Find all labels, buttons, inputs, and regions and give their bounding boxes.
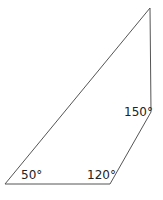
angle-label-120: 120° [87, 168, 116, 182]
angle-label-150: 150° [124, 105, 153, 119]
angle-label-50: 50° [21, 168, 42, 182]
quadrilateral-shape [5, 8, 151, 184]
quadrilateral-diagram: 150° 120° 50° [0, 0, 163, 200]
